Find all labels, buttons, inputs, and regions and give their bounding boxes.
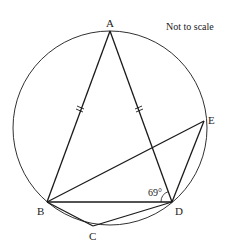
- not-to-scale-note: Not to scale: [166, 21, 214, 32]
- equal-mark-AB: [76, 106, 84, 112]
- segment-AB: [47, 31, 110, 202]
- segment-BE: [47, 121, 204, 202]
- segment-BC: [47, 202, 93, 226]
- label-E: E: [208, 114, 215, 126]
- circumcircle: [13, 31, 207, 225]
- label-A: A: [106, 17, 114, 29]
- label-C: C: [89, 230, 96, 242]
- angle-arc-D: [161, 192, 168, 202]
- segment-DE: [172, 121, 204, 202]
- equal-mark-AD: [135, 106, 143, 112]
- label-D: D: [175, 205, 183, 217]
- angle-label: 69°: [148, 187, 162, 198]
- segment-AD: [110, 31, 172, 202]
- circle-geometry-diagram: A B C D E 69° Not to scale: [0, 0, 230, 249]
- label-B: B: [37, 205, 44, 217]
